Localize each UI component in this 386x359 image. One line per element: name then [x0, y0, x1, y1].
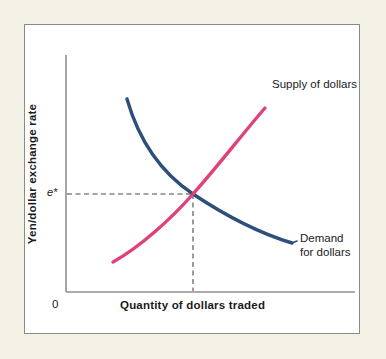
supply-curve: [113, 108, 265, 262]
equilibrium-rate-tick-label: e*: [47, 186, 57, 198]
demand-curve-label-line2: for dollars: [300, 246, 351, 260]
supply-curve-label: Supply of dollars: [272, 78, 357, 90]
y-axis-label: Yen/dollar exchange rate: [26, 84, 38, 264]
demand-label-leader: [292, 241, 297, 243]
demand-curve-label: Demand for dollars: [300, 232, 351, 259]
figure-page: Yen/dollar exchange rate Quantity of dol…: [0, 0, 386, 359]
demand-curve: [127, 99, 292, 243]
x-axis-label: Quantity of dollars traded: [120, 299, 265, 311]
demand-curve-label-line1: Demand: [300, 232, 351, 246]
origin-label: 0: [52, 298, 58, 310]
